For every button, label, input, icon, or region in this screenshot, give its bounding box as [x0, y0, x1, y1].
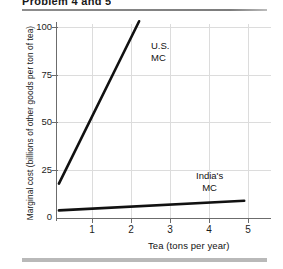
us-mc-label: U.S. MC — [151, 40, 169, 63]
top-rule-divider — [22, 9, 267, 11]
gridline-y-100 — [57, 27, 271, 28]
x-tick-1 — [92, 218, 93, 223]
gridline-x-1 — [92, 24, 93, 218]
gridline-x-5 — [248, 24, 249, 218]
bottom-rule-divider — [22, 258, 267, 262]
x-tick-label-2: 2 — [122, 224, 140, 235]
gridline-y-25 — [57, 170, 271, 171]
x-axis-title: Tea (tons per year) — [148, 240, 230, 251]
y-axis-title-host: Marginal cost (billions of other goods p… — [19, 22, 33, 222]
y-tick-75 — [52, 75, 58, 76]
x-tick-4 — [209, 218, 210, 223]
figure-container: Problem 4 and 5 100 75 50 25 0 1 2 3 4 5 — [0, 0, 283, 269]
y-axis-title: Marginal cost (billions of other goods p… — [25, 18, 35, 228]
figure-title: Problem 4 and 5 — [22, 0, 111, 5]
y-tick-50 — [52, 122, 58, 123]
x-tick-3 — [170, 218, 171, 223]
gridline-y-50 — [57, 122, 271, 123]
x-tick-label-1: 1 — [83, 224, 101, 235]
x-tick-5 — [248, 218, 249, 223]
india-mc-label: India's MC — [196, 170, 223, 193]
y-tick-25 — [52, 170, 58, 171]
x-tick-2 — [131, 218, 132, 223]
x-axis-line — [57, 218, 271, 219]
x-tick-label-3: 3 — [161, 224, 179, 235]
x-tick-label-4: 4 — [200, 224, 218, 235]
x-tick-label-5: 5 — [239, 224, 257, 235]
gridline-x-2 — [131, 24, 132, 218]
gridline-x-3 — [170, 24, 171, 218]
us-mc-line — [59, 21, 139, 183]
gridline-y-75 — [57, 75, 271, 76]
y-tick-100 — [52, 27, 58, 28]
india-mc-line — [59, 201, 244, 211]
